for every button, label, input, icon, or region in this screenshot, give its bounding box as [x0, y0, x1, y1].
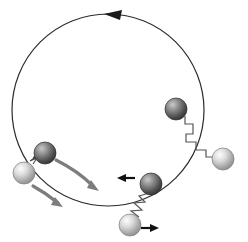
- right-spring: [185, 116, 214, 157]
- velocity-arrow-bottom-dark-head: [117, 174, 126, 182]
- right-light-sphere: [212, 148, 234, 170]
- velocity-arrow-bottom-light-head: [150, 224, 159, 232]
- rotation-arrow-icon: [104, 10, 122, 20]
- sphere-group: [13, 98, 234, 236]
- left-dark-sphere: [34, 142, 56, 164]
- physics-diagram: [0, 0, 248, 242]
- bottom-dark-sphere: [140, 173, 162, 195]
- bottom-light-sphere: [119, 214, 141, 236]
- left-light-sphere: [13, 162, 35, 184]
- bottom-spring: [131, 194, 146, 217]
- motion-arrow-upper-gray: [56, 160, 93, 186]
- diagram-canvas: [0, 0, 248, 242]
- right-dark-sphere: [165, 98, 187, 120]
